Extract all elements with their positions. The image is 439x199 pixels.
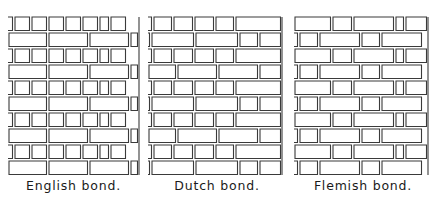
brick [49,65,88,79]
dutch-bond-panel [146,0,292,178]
brick [382,97,422,111]
brick [15,49,30,63]
brick [32,145,47,159]
brick [174,81,193,95]
brick [320,97,360,111]
brick [382,33,422,47]
brick [236,113,281,127]
brick [111,145,126,159]
brick [320,129,360,143]
brick [83,113,98,127]
brick [148,81,152,95]
brick [236,49,281,63]
brick [66,145,81,159]
brick [49,161,88,175]
brick [8,81,13,95]
brick [100,81,109,95]
brick [396,113,404,127]
brick [131,65,138,79]
brick [66,49,81,63]
brick [9,65,47,79]
brick [148,145,152,159]
brick [83,145,98,159]
brick [9,97,47,111]
brick [333,113,352,127]
brick [83,81,98,95]
brick [148,161,150,175]
brick [236,17,281,31]
brick [9,161,47,175]
brick [406,17,427,31]
brick [131,161,138,175]
brick [236,145,281,159]
brick [154,145,172,159]
brick [32,113,47,127]
brick [49,33,88,47]
brick [8,17,13,31]
brick [362,65,380,79]
brick [178,129,217,143]
brick [111,49,126,63]
brick [240,97,258,111]
brick [90,97,129,111]
brick [300,129,318,143]
brick [260,161,281,175]
brick [406,49,427,63]
brick [295,81,331,95]
brick [195,81,214,95]
brick [300,33,318,47]
flemish-bond-caption: Flemish bond. [296,178,430,193]
brick [240,161,258,175]
brick [382,129,422,143]
dutch-bond-brick-pattern [146,0,292,178]
brick [174,49,193,63]
brick [333,17,352,31]
brick [260,65,281,79]
brick [49,97,88,111]
brick [90,161,129,175]
brick [8,145,13,159]
brick [294,33,298,47]
brick [294,97,298,111]
brick [178,65,217,79]
brick [49,81,64,95]
brick [90,33,129,47]
brick [295,113,331,127]
brick [362,129,380,143]
brick [32,49,47,63]
english-bond-caption: English bond. [8,178,139,193]
brick [152,33,194,47]
brick [382,161,422,175]
brick [216,81,234,95]
brick [111,113,126,127]
brick [131,97,138,111]
brick [300,97,318,111]
brick [148,17,152,31]
brick [100,17,109,31]
brick [354,49,394,63]
brick [300,65,318,79]
brick [15,17,30,31]
brick [354,145,394,159]
brick [49,129,88,143]
brick [15,81,30,95]
brick [196,161,238,175]
brick [354,17,394,31]
brick [354,113,394,127]
brick [396,145,404,159]
brick [49,49,64,63]
brick [216,113,234,127]
brick [83,49,98,63]
brick [66,17,81,31]
brick [100,49,109,63]
brick [100,113,109,127]
brick [131,33,138,47]
brick [260,33,281,47]
brick [294,65,298,79]
brick [111,17,126,31]
brick [195,145,214,159]
brick [216,49,234,63]
brick [148,97,150,111]
brick [294,161,298,175]
brick [396,81,404,95]
